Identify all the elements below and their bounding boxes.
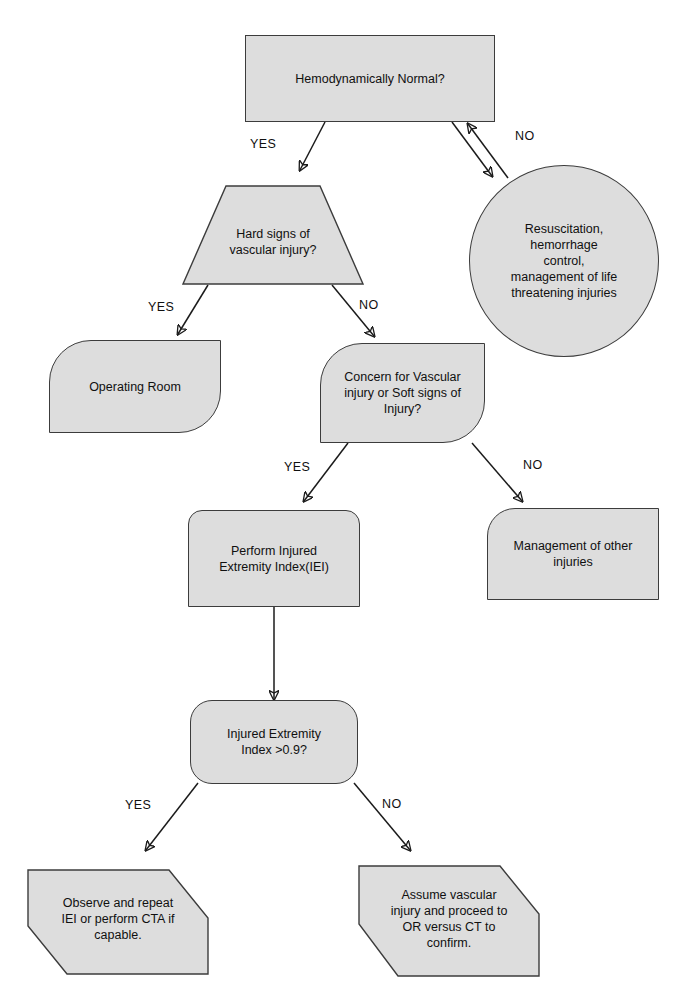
edge-label-no-hemodynamic: NO: [515, 129, 535, 143]
edge-label-no-concern: NO: [523, 458, 543, 472]
edge-label-yes-hemodynamic: YES: [250, 137, 276, 151]
edge-label-yes-iei: YES: [125, 798, 151, 812]
edge-label-no-hard-signs: NO: [359, 298, 379, 312]
node-label: Operating Room: [50, 379, 220, 395]
edge-label-yes-concern: YES: [284, 460, 310, 474]
node-label: Concern for Vascular injury or Soft sign…: [321, 369, 484, 417]
node-resuscitation[interactable]: Resuscitation, hemorrhage control, manag…: [469, 165, 659, 357]
edge-label-yes-hard-signs: YES: [148, 300, 174, 314]
node-label: Management of other injuries: [488, 538, 658, 570]
node-hemodynamically-normal[interactable]: Hemodynamically Normal?: [245, 35, 495, 122]
node-concern-vascular[interactable]: Concern for Vascular injury or Soft sign…: [320, 343, 485, 443]
node-perform-iei[interactable]: Perform Injured Extremity Index(IEI): [188, 510, 360, 607]
node-label: Resuscitation, hemorrhage control, manag…: [470, 221, 658, 301]
node-label: Injured Extremity Index >0.9?: [191, 726, 357, 758]
node-label: Hard signs of vascular injury?: [182, 226, 364, 258]
flowchart-canvas: Hemodynamically Normal? Hard signs of va…: [0, 0, 687, 1004]
edge-label-no-iei: NO: [382, 797, 402, 811]
node-label: Hemodynamically Normal?: [246, 71, 494, 87]
node-assume-injury[interactable]: Assume vascular injury and proceed to OR…: [358, 862, 540, 980]
node-label: Assume vascular injury and proceed to OR…: [358, 887, 540, 951]
node-iei-threshold[interactable]: Injured Extremity Index >0.9?: [190, 700, 358, 784]
node-operating-room[interactable]: Operating Room: [49, 340, 221, 433]
node-label: Observe and repeat IEI or perform CTA if…: [27, 895, 209, 943]
node-layer: Hemodynamically Normal? Hard signs of va…: [0, 0, 687, 1004]
node-hard-signs[interactable]: Hard signs of vascular injury?: [182, 185, 364, 285]
node-label: Perform Injured Extremity Index(IEI): [189, 543, 359, 575]
node-management-other[interactable]: Management of other injuries: [487, 508, 659, 600]
node-observe-repeat[interactable]: Observe and repeat IEI or perform CTA if…: [27, 866, 209, 978]
